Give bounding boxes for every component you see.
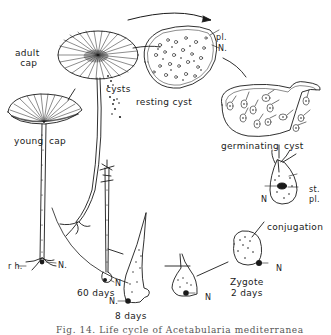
label-germinating-cyst: cyst [284,141,304,151]
label-resting-cyst: resting cyst [136,97,192,107]
zygote-illustration [234,231,269,266]
label-60-days: 60 days [77,288,115,298]
label-zygote: Zygote [230,277,264,287]
label-zygote-days: 2 days [231,288,263,298]
cycle-arrow [128,13,211,22]
label-adult-cap-line1: adult [15,48,39,58]
label-n-8days-left: N. [109,297,118,307]
label-conjugation: conjugation [267,222,323,232]
cycle-path-left [52,208,128,283]
label-8-days: 8 days [115,311,147,321]
sixty-days-illustration [100,160,114,283]
cysts-dots [107,75,121,118]
connector-cap-to-resting [133,46,160,48]
label-n-8days-right: N [205,293,211,303]
connector-zygote-to-8days [197,262,228,276]
label-germinating: germinating [221,141,279,151]
label-st: st. [309,185,320,195]
resting-cyst-illustration [144,26,219,88]
label-pl-resting: pl. [216,33,227,43]
label-pl-conj: pl. [309,195,320,205]
conjugation-illustration [265,150,298,204]
adult-cap-illustration [58,31,138,236]
eight-days-illustration [118,213,197,304]
label-adult-cap-line2: cap [15,58,39,68]
label-n-zygote: N [276,264,282,274]
label-young: young [14,136,43,146]
label-rh: r h. [8,262,23,272]
connector-60-to-8 [108,249,123,254]
connector-resting-to-germ [223,58,246,77]
label-cysts: cysts [106,84,131,94]
label-n-conj: N [261,195,267,205]
label-n-young: N. [58,261,67,271]
label-n-resting: N. [218,44,227,54]
young-cap-illustration [8,94,82,270]
label-adult-cap: adult cap [15,48,39,68]
figure-caption: Fig. 14. Life cycle of Acetabularia medi… [56,325,304,335]
connector-conj-to-zygote [252,222,264,237]
label-n-60days: N [115,279,121,289]
germinating-cyst-illustration [221,82,320,137]
label-young-cap: cap [49,136,66,146]
